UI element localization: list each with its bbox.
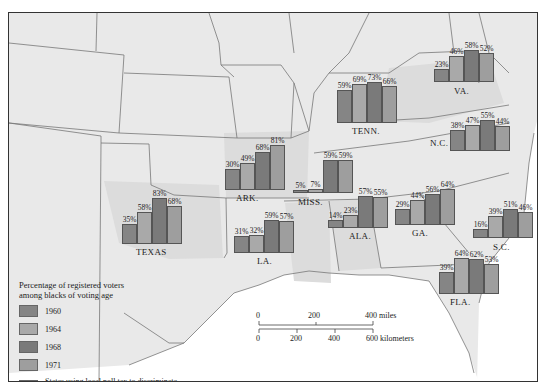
bar-1968: 62% [469,259,484,294]
label-louisiana: LA. [257,256,272,266]
bar-1971: 44% [495,126,510,151]
bar-1968: 56% [425,194,440,225]
label-tennessee: TENN. [352,126,380,136]
bar-1960: 23% [434,69,449,82]
scale-lines [258,311,458,351]
bar-1964: 58% [137,212,152,244]
legend-label: 1960 [45,307,61,316]
bar-1960: 38% [450,130,465,151]
bar-group: 38% 47% 55% 44% [450,120,510,151]
legend-title-line2: among blacks of voting age [19,291,279,301]
bar-1960: 5% [293,190,308,193]
label-virginia: VA. [454,86,469,96]
bar-1968: 68% [255,152,270,190]
bar-1960: 16% [473,229,488,238]
legend-item-poll-tax: States using local poll tax to discrimin… [19,376,279,382]
km-label-400: 400 [328,334,340,343]
bar-1964: 64% [454,258,469,294]
km-label-200: 200 [290,334,302,343]
bar-1964: 49% [240,163,255,190]
chart-south-carolina: 16% 39% 51% 46% [473,209,535,238]
bar-group: 5% 7% 59% 59% [293,160,353,193]
chart-texas: 35% 58% 83% 68% [122,198,214,244]
chart-north-carolina: 38% 47% 55% 44% [450,120,512,151]
bar-1964: 47% [465,125,480,151]
legend-label: 1971 [45,361,61,370]
bar-1964: 46% [449,56,464,82]
bar-1964: 39% [488,216,503,238]
bar-1960: 30% [225,169,240,190]
bar-1971: 81% [270,145,285,190]
bar-group: 29% 44% 56% 64% [395,189,455,225]
bar-1960: 14% [328,220,343,228]
bar-1971: 66% [382,86,397,123]
bar-1971: 46% [518,212,533,238]
legend-label: 1968 [45,343,61,352]
label-texas: TEXAS [136,247,167,257]
bar-1968: 57% [358,196,373,228]
bar-group: 14% 23% 57% 55% [328,196,388,228]
bar-group: 35% 58% 83% 68% [122,198,182,244]
swatch-1960 [19,305,38,317]
swatch-1968 [19,341,38,353]
bar-1968: 59% [264,220,279,253]
bar-group: 31% 32% 59% 57% [234,220,294,253]
map-frame: 35% 58% 83% 68% TEXAS 30% 49% 68% 81% AR… [8,12,538,382]
bar-1968: 83% [152,198,167,244]
chart-alabama: 14% 23% 57% 55% [328,196,390,228]
bar-1968: 55% [480,120,495,151]
legend-item-1971: 1971 [19,358,279,372]
legend-label: 1964 [45,325,61,334]
legend-title: Percentage of registered voters among bl… [19,281,279,300]
bar-1960: 35% [122,224,137,244]
label-arkansas: ARK. [236,193,258,203]
bar-1960: 59% [337,90,352,123]
bar-1964: 32% [249,235,264,253]
label-alabama: ALA. [349,231,371,241]
legend-item-1968: 1968 [19,340,279,354]
legend-item-1960: 1960 [19,304,279,318]
chart-georgia: 29% 44% 56% 64% [395,189,457,225]
bar-1971: 64% [440,189,455,225]
bar-1971: 55% [373,197,388,228]
bar-group: 59% 69% 73% 66% [337,82,397,123]
bar-1964: 44% [410,200,425,225]
label-north-carolina: N.C. [430,138,448,148]
bar-1968: 58% [464,50,479,82]
bar-1960: 29% [395,209,410,225]
bar-group: 39% 64% 62% 53% [439,258,499,294]
swatch-1971 [19,359,38,371]
bar-1971: 53% [484,264,499,294]
bar-group: 16% 39% 51% 46% [473,209,533,238]
bar-1968: 73% [367,82,382,123]
label-georgia: GA. [412,228,428,238]
bar-1971: 57% [279,221,294,253]
bar-group: 23% 46% 58% 52% [434,50,494,82]
poll-tax-line1: States using local poll tax to discrimin… [45,377,177,382]
chart-louisiana: 31% 32% 59% 57% [234,220,296,253]
bar-group: 30% 49% 68% 81% [225,145,285,190]
legend-item-1964: 1964 [19,322,279,336]
bar-1971: 59% [338,160,353,193]
bar-1971: 52% [479,53,494,82]
bar-1968: 59% [323,160,338,193]
chart-tennessee: 59% 69% 73% 66% [337,82,399,123]
swatch-poll-tax [19,380,38,382]
chart-arkansas: 30% 49% 68% 81% [225,145,287,190]
chart-mississippi: 5% 7% 59% 59% [293,160,355,193]
legend-poll-tax-text: States using local poll tax to discrimin… [45,377,177,382]
bar-1960: 31% [234,236,249,253]
bar-1960: 39% [439,272,454,294]
scale-bar: 0 200 400 miles 0 200 400 600 kilometers [258,311,458,351]
legend: Percentage of registered voters among bl… [19,281,279,382]
bar-1971: 68% [167,206,182,244]
km-label-600: 600 kilometers [366,334,414,343]
chart-virginia: 23% 46% 58% 52% [434,50,496,82]
label-south-carolina: S.C. [493,242,510,252]
bar-1964: 7% [308,189,323,193]
label-florida: FLA. [450,297,470,307]
bar-1964: 69% [352,84,367,123]
bar-1964: 23% [343,215,358,228]
chart-florida: 39% 64% 62% 53% [439,258,501,294]
label-mississippi: MISS. [298,197,323,207]
